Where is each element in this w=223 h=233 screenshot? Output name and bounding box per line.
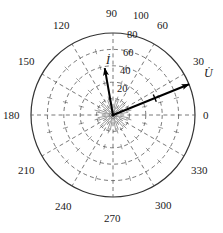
voltage-phasor-label: U̇ (204, 68, 213, 79)
radial-label-100: 100 (133, 10, 149, 21)
angle-label-180: 180 (3, 110, 20, 121)
angle-label-30: 30 (193, 56, 204, 67)
angle-label-150: 150 (18, 56, 35, 67)
radial-label-80: 80 (127, 29, 138, 40)
polar-grid-canvas (0, 0, 223, 233)
current-phasor-label: İ (106, 55, 110, 66)
angle-label-300: 300 (155, 200, 172, 211)
angle-label-270: 270 (104, 213, 121, 224)
angle-label-60: 60 (157, 20, 168, 31)
radial-label-20: 20 (117, 83, 128, 94)
radial-label-40: 40 (120, 65, 131, 76)
radial-label-60: 60 (123, 47, 134, 58)
angle-label-240: 240 (55, 201, 72, 212)
angle-label-120: 120 (53, 20, 70, 31)
angle-label-90: 90 (106, 8, 117, 19)
angle-label-0: 0 (203, 110, 209, 121)
angle-label-210: 210 (18, 165, 35, 176)
angle-label-330: 330 (191, 165, 208, 176)
polar-phasor-diagram: 0 30 60 90 120 150 180 210 240 270 300 3… (0, 0, 223, 233)
